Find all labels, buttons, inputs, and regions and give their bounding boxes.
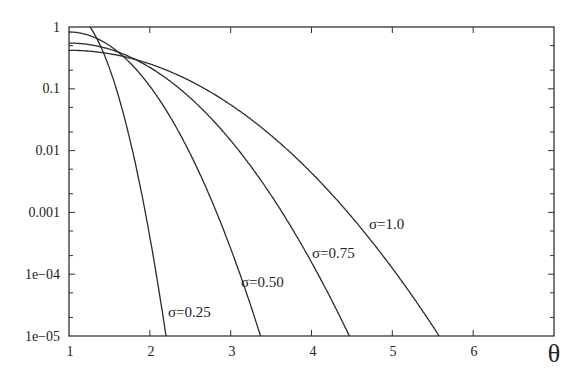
x-tick-label: 4 — [310, 344, 317, 359]
curve-label-sigma-075: σ=0.75 — [312, 245, 355, 261]
plot-frame — [69, 27, 554, 336]
y-tick-label: 0.001 — [29, 205, 61, 220]
curve-sigma-025 — [90, 27, 166, 336]
curve-label-sigma-050: σ=0.50 — [241, 274, 284, 290]
x-tick-label: 1 — [67, 344, 74, 359]
x-axis-label: θ — [548, 339, 560, 368]
y-tick-label: 0.1 — [43, 81, 61, 96]
curve-sigma-100 — [69, 50, 439, 336]
chart: 1 0.1 0.01 0.001 1e−04 1e−05 1 2 3 4 5 6… — [0, 0, 587, 377]
y-tick-label: 1 — [53, 20, 60, 35]
y-tick-label: 1e−04 — [25, 267, 60, 282]
x-tick-label: 3 — [229, 344, 236, 359]
x-tick-label: 5 — [390, 344, 397, 359]
curve-sigma-075 — [69, 43, 350, 336]
curve-label-sigma-100: σ=1.0 — [369, 216, 404, 232]
curve-label-sigma-025: σ=0.25 — [168, 304, 211, 320]
axis-ticks — [69, 27, 554, 336]
x-tick-label: 2 — [148, 344, 155, 359]
y-tick-label: 0.01 — [36, 143, 61, 158]
y-tick-label: 1e−05 — [25, 329, 60, 344]
x-tick-label: 6 — [471, 344, 478, 359]
